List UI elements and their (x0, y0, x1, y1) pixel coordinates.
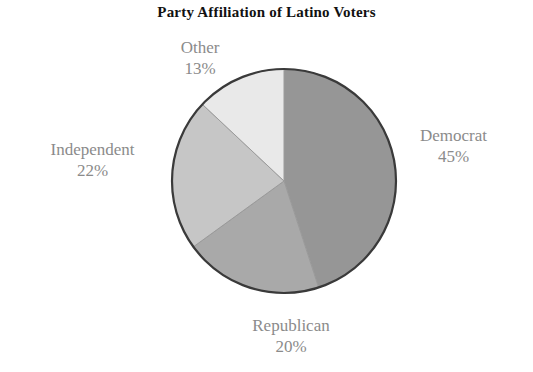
pie-svg (170, 61, 398, 303)
pie-graphic (170, 61, 398, 303)
slice-label-republican-value: 20% (206, 337, 376, 358)
slice-label-other-value: 13% (160, 59, 240, 80)
chart-title: Party Affiliation of Latino Voters (0, 4, 533, 21)
slice-label-other: Other 13% (160, 38, 240, 79)
slice-label-democrat-name: Democrat (420, 126, 487, 147)
pie-chart-figure: Party Affiliation of Latino Voters Democ… (0, 0, 533, 372)
slice-label-republican: Republican 20% (206, 316, 376, 357)
slice-label-republican-name: Republican (206, 316, 376, 337)
slice-label-independent-value: 22% (20, 161, 165, 182)
slice-label-democrat-value: 45% (420, 147, 487, 168)
slice-label-democrat: Democrat 45% (420, 126, 487, 167)
slice-label-other-name: Other (160, 38, 240, 59)
slice-label-independent-name: Independent (20, 140, 165, 161)
slice-label-independent: Independent 22% (20, 140, 165, 181)
pie-slices-group (172, 69, 396, 293)
